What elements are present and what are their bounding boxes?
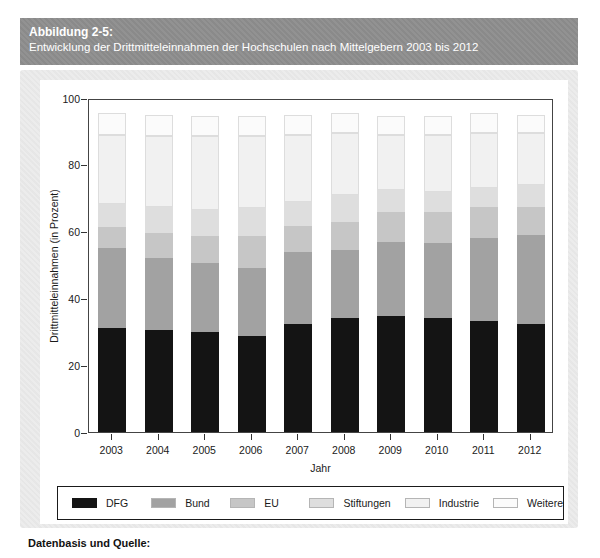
bar-segment-eu-2010 bbox=[424, 212, 452, 244]
x-tick-label: 2007 bbox=[274, 444, 321, 456]
legend-swatch-weitere bbox=[493, 498, 518, 508]
legend-item-stiftungen: Stiftungen bbox=[295, 497, 390, 509]
bar-segment-eu-2003 bbox=[98, 227, 126, 248]
bar-segment-stiftungen-2010 bbox=[424, 192, 452, 212]
bar-segment-dfg-2006 bbox=[238, 336, 266, 432]
figure-title-bar: Abbildung 2-5: Entwicklung der Drittmitt… bbox=[20, 18, 578, 65]
bar-segment-eu-2006 bbox=[238, 236, 266, 269]
bar-segment-weitere-2007 bbox=[284, 115, 312, 135]
bar-segment-bund-2007 bbox=[284, 252, 312, 325]
x-tick-label: 2009 bbox=[367, 444, 414, 456]
x-tick-label: 2004 bbox=[134, 444, 181, 456]
bar-segment-bund-2008 bbox=[331, 250, 359, 318]
source-note-label: Datenbasis und Quelle: bbox=[28, 537, 150, 549]
bar-segment-industrie-2009 bbox=[377, 135, 405, 190]
x-tick-label: 2003 bbox=[88, 444, 135, 456]
x-tick bbox=[530, 434, 531, 440]
x-tick bbox=[483, 434, 484, 440]
legend-swatch-dfg bbox=[72, 498, 97, 508]
legend-item-dfg: DFG bbox=[58, 497, 137, 509]
bar-segment-stiftungen-2004 bbox=[145, 207, 173, 233]
bar-segment-industrie-2006 bbox=[238, 136, 266, 208]
chart-card: Drittmitteleinnahmen (in Prozent) 020406… bbox=[40, 80, 568, 524]
bar-segment-weitere-2003 bbox=[98, 113, 126, 135]
x-tick-label: 2008 bbox=[320, 444, 367, 456]
bar-segment-dfg-2007 bbox=[284, 324, 312, 432]
plot-area bbox=[88, 99, 553, 433]
bar-segment-industrie-2007 bbox=[284, 135, 312, 202]
y-tick-label: 100 bbox=[42, 93, 80, 105]
bar-segment-eu-2007 bbox=[284, 226, 312, 252]
bar-segment-industrie-2008 bbox=[331, 133, 359, 195]
bar-segment-weitere-2006 bbox=[238, 116, 266, 136]
y-tick bbox=[81, 232, 87, 233]
x-tick bbox=[111, 434, 112, 440]
legend-item-bund: Bund bbox=[137, 497, 216, 509]
y-tick-label: 20 bbox=[42, 360, 80, 372]
y-tick bbox=[81, 366, 87, 367]
x-tick-label: 2010 bbox=[413, 444, 460, 456]
bar-segment-eu-2009 bbox=[377, 212, 405, 242]
bar-segment-stiftungen-2005 bbox=[191, 210, 219, 236]
bar-segment-bund-2011 bbox=[470, 238, 498, 320]
bar-segment-industrie-2003 bbox=[98, 135, 126, 204]
x-tick bbox=[158, 434, 159, 440]
legend-item-industrie: Industrie bbox=[391, 497, 479, 509]
legend-swatch-eu bbox=[230, 498, 255, 508]
x-tick-label: 2006 bbox=[227, 444, 274, 456]
bar-segment-stiftungen-2009 bbox=[377, 190, 405, 212]
bar-segment-dfg-2004 bbox=[145, 330, 173, 432]
x-tick-label: 2011 bbox=[460, 444, 507, 456]
bar-segment-industrie-2011 bbox=[470, 133, 498, 188]
legend: DFGBundEUStiftungenIndustrieWeitere bbox=[57, 486, 564, 520]
bar-segment-weitere-2012 bbox=[517, 115, 545, 133]
bar-segment-eu-2004 bbox=[145, 233, 173, 258]
bar-segment-stiftungen-2008 bbox=[331, 195, 359, 222]
bar-segment-industrie-2005 bbox=[191, 136, 219, 209]
legend-swatch-stiftungen bbox=[309, 498, 334, 508]
bar-segment-bund-2004 bbox=[145, 258, 173, 330]
y-tick-label: 60 bbox=[42, 226, 80, 238]
bar-segment-eu-2008 bbox=[331, 222, 359, 250]
x-tick bbox=[297, 434, 298, 440]
chart-panel: Drittmitteleinnahmen (in Prozent) 020406… bbox=[20, 70, 578, 528]
bar-segment-eu-2012 bbox=[517, 207, 545, 235]
y-tick bbox=[81, 433, 87, 434]
bar-segment-dfg-2010 bbox=[424, 318, 452, 432]
x-tick bbox=[204, 434, 205, 440]
y-tick bbox=[81, 99, 87, 100]
bar-segment-bund-2006 bbox=[238, 268, 266, 336]
bar-segment-dfg-2012 bbox=[517, 324, 545, 432]
bar-segment-stiftungen-2007 bbox=[284, 202, 312, 225]
legend-swatch-industrie bbox=[405, 498, 430, 508]
bar-segment-dfg-2008 bbox=[331, 318, 359, 432]
bar-segment-weitere-2005 bbox=[191, 116, 219, 136]
bar-segment-bund-2009 bbox=[377, 242, 405, 316]
bar-segment-bund-2005 bbox=[191, 263, 219, 332]
bar-segment-dfg-2003 bbox=[98, 328, 126, 432]
bar-segment-weitere-2008 bbox=[331, 113, 359, 133]
x-tick bbox=[437, 434, 438, 440]
legend-item-eu: EU bbox=[216, 497, 295, 509]
x-tick bbox=[344, 434, 345, 440]
bar-segment-weitere-2010 bbox=[424, 116, 452, 134]
legend-label-weitere: Weitere bbox=[527, 497, 563, 509]
bar-segment-industrie-2012 bbox=[517, 133, 545, 185]
bar-segment-stiftungen-2011 bbox=[470, 188, 498, 206]
bar-segment-eu-2011 bbox=[470, 207, 498, 239]
bar-segment-weitere-2004 bbox=[145, 115, 173, 136]
legend-label-bund: Bund bbox=[185, 497, 210, 509]
bar-segment-weitere-2011 bbox=[470, 113, 498, 133]
bar-segment-bund-2010 bbox=[424, 243, 452, 317]
bar-segment-industrie-2004 bbox=[145, 136, 173, 207]
bar-segment-stiftungen-2006 bbox=[238, 208, 266, 235]
bar-segment-dfg-2009 bbox=[377, 316, 405, 432]
bar-segment-dfg-2011 bbox=[470, 321, 498, 432]
x-axis-title: Jahr bbox=[88, 462, 553, 474]
bar-segment-dfg-2005 bbox=[191, 332, 219, 432]
y-tick-label: 80 bbox=[42, 159, 80, 171]
x-tick-label: 2012 bbox=[506, 444, 553, 456]
bar-segment-bund-2003 bbox=[98, 248, 126, 328]
legend-swatch-bund bbox=[151, 498, 176, 508]
x-tick bbox=[390, 434, 391, 440]
